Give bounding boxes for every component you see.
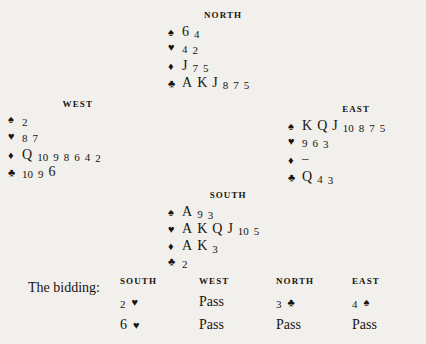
card: K <box>302 119 312 133</box>
bid-east: Pass <box>352 317 412 340</box>
north-spades-row: ♠ 6 4 <box>168 25 254 42</box>
card: 3 <box>208 210 214 221</box>
card: J <box>227 222 232 236</box>
north-spades-cards: 6 4 <box>182 25 205 39</box>
hand-label-north: NORTH <box>192 10 254 20</box>
card: 2 <box>22 117 28 128</box>
heart-icon: ♥ <box>132 297 139 308</box>
bid-level: 4 <box>352 298 358 310</box>
east-clubs-cards: Q 4 3 <box>302 170 338 184</box>
card: 2 <box>182 259 188 270</box>
bridge-hand-diagram: NORTH ♠ 6 4 ♥ 4 2 ♦ J 7 5 ♣ <box>0 0 426 344</box>
card: 7 <box>33 133 39 144</box>
card: 2 <box>193 45 199 56</box>
south-spades-cards: A 9 3 <box>182 205 218 219</box>
card: 5 <box>203 63 209 74</box>
heart-icon: ♥ <box>288 136 302 147</box>
card: 9 <box>197 209 203 220</box>
bid-west: Pass <box>199 317 276 340</box>
spade-icon: ♠ <box>168 207 182 218</box>
bid-level: 3 <box>276 298 282 310</box>
void-dash: – <box>302 151 309 164</box>
card: A <box>182 222 192 236</box>
card: 9 <box>302 138 308 149</box>
card: 3 <box>212 244 218 255</box>
bidding-col-south: SOUTH <box>120 276 199 294</box>
card: 10 <box>343 123 354 134</box>
bid-south: 2 ♥ <box>120 294 199 317</box>
diamond-icon: ♦ <box>168 241 182 252</box>
bid-call: Pass <box>199 294 224 309</box>
diamond-icon: ♦ <box>168 61 182 72</box>
west-clubs-cards: 10 9 6 <box>22 165 61 179</box>
club-icon: ♣ <box>168 78 182 89</box>
south-clubs-cards: 2 <box>182 256 193 267</box>
card: 10 <box>22 169 33 180</box>
card: 8 <box>359 123 365 134</box>
bidding-table: SOUTH WEST NORTH EAST 2 ♥ Pass <box>120 276 412 340</box>
card: 10 <box>37 152 48 163</box>
south-spades-row: ♠ A 9 3 <box>168 205 264 222</box>
bidding-col-east: EAST <box>352 276 412 294</box>
hand-north: NORTH ♠ 6 4 ♥ 4 2 ♦ J 7 5 ♣ <box>168 10 254 93</box>
north-clubs-cards: A K J 8 7 5 <box>182 76 254 90</box>
card: 4 <box>317 174 323 185</box>
bid-north: 3 ♣ <box>276 294 352 317</box>
east-hearts-cards: 9 6 3 <box>302 136 334 147</box>
bid-level: 2 <box>120 298 126 310</box>
card: 6 <box>49 165 56 179</box>
card: 6 <box>313 138 319 149</box>
south-hearts-row: ♥ A K Q J 10 5 <box>168 222 264 239</box>
north-hearts-row: ♥ 4 2 <box>168 42 254 59</box>
card: A <box>182 239 192 253</box>
north-diamonds-row: ♦ J 7 5 <box>168 59 254 76</box>
east-clubs-row: ♣ Q 4 3 <box>288 170 390 187</box>
east-spades-cards: K Q J 10 8 7 5 <box>302 119 390 133</box>
heart-icon: ♥ <box>133 320 140 331</box>
card: K <box>197 76 207 90</box>
card: 7 <box>233 80 239 91</box>
card: J <box>182 59 187 73</box>
south-diamonds-cards: A K 3 <box>182 239 223 253</box>
bidding-section: The bidding: SOUTH WEST NORTH EAST 2 ♥ <box>28 276 412 340</box>
bid-east: 4 ♠ <box>352 294 412 317</box>
east-spades-row: ♠ K Q J 10 8 7 5 <box>288 119 390 136</box>
west-hearts-cards: 8 7 <box>22 131 43 142</box>
card: 3 <box>328 175 334 186</box>
heart-icon: ♥ <box>8 131 22 142</box>
hand-label-south: SOUTH <box>192 190 264 200</box>
card: Q <box>302 170 312 184</box>
bid-call: Pass <box>276 317 301 332</box>
card: 3 <box>323 139 329 150</box>
card: A <box>182 205 192 219</box>
club-icon: ♣ <box>8 167 22 178</box>
spade-icon: ♠ <box>168 27 182 38</box>
south-clubs-row: ♣ 2 <box>168 256 264 273</box>
south-hearts-cards: A K Q J 10 5 <box>182 222 264 236</box>
hand-west: WEST ♠ 2 ♥ 8 7 ♦ Q 10 9 8 6 4 2 <box>8 99 106 182</box>
card: 4 <box>194 29 200 40</box>
north-diamonds-cards: J 7 5 <box>182 59 213 73</box>
spade-icon: ♠ <box>364 297 370 308</box>
card: 5 <box>244 80 250 91</box>
west-spades-row: ♠ 2 <box>8 114 106 131</box>
card: 6 <box>74 152 80 163</box>
card: Q <box>212 222 222 236</box>
diamond-icon: ♦ <box>8 150 22 161</box>
card: 7 <box>369 123 375 134</box>
card: J <box>332 119 337 133</box>
card: 8 <box>22 133 28 144</box>
card: 4 <box>85 152 91 163</box>
bidding-row: 2 ♥ Pass 3 ♣ 4 <box>120 294 412 317</box>
west-diamonds-row: ♦ Q 10 9 8 6 4 2 <box>8 148 106 165</box>
spade-icon: ♠ <box>8 114 22 125</box>
bidding-col-north: NORTH <box>276 276 352 294</box>
bidding-row: 6 ♥ Pass Pass Pass <box>120 317 412 340</box>
north-hearts-cards: 4 2 <box>182 42 203 53</box>
north-clubs-row: ♣ A K J 8 7 5 <box>168 76 254 93</box>
west-hearts-row: ♥ 8 7 <box>8 131 106 148</box>
card: 4 <box>182 44 188 55</box>
card: J <box>212 76 217 90</box>
bidding-header-row: SOUTH WEST NORTH EAST <box>120 276 412 294</box>
card: A <box>182 76 192 90</box>
